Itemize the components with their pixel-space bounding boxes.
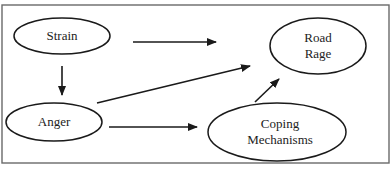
node-road-rage-label-line2: Rage: [305, 46, 332, 61]
node-road-rage: Road Rage: [270, 18, 366, 74]
node-road-rage-label-line1: Road: [304, 30, 332, 45]
node-strain: Strain: [14, 18, 110, 54]
node-strain-label: Strain: [46, 28, 78, 43]
path-diagram: Strain Anger Road Rage Coping Mechanisms: [0, 0, 391, 170]
node-anger: Anger: [6, 103, 102, 141]
node-coping-mechanisms: Coping Mechanisms: [208, 103, 346, 161]
node-coping-label-line2: Mechanisms: [247, 132, 313, 147]
node-anger-label: Anger: [38, 114, 71, 129]
node-coping-label-line1: Coping: [261, 116, 300, 131]
